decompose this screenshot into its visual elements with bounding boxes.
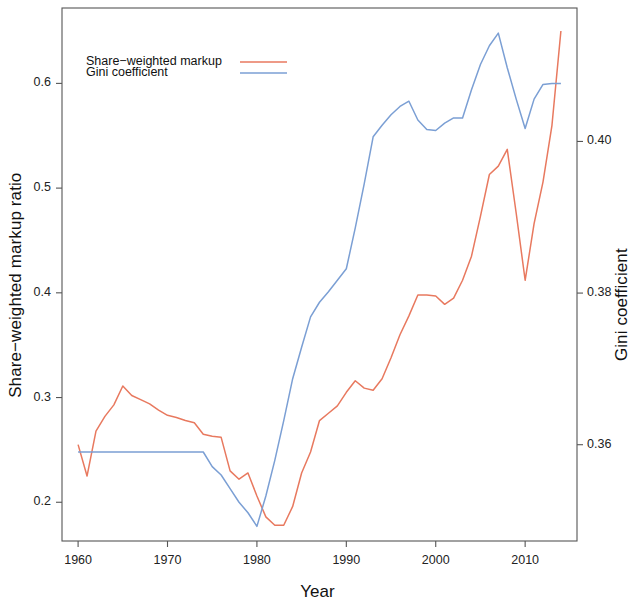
y-tick-label-right: 0.36 xyxy=(587,437,623,451)
series-line-share-weighted-markup xyxy=(78,31,561,525)
x-axis-title: Year xyxy=(0,582,635,602)
legend-label-gini-coefficient: Gini coefficient xyxy=(86,65,168,79)
y-tick-label-right: 0.40 xyxy=(587,133,623,147)
y-tick-label-left: 0.2 xyxy=(17,494,51,508)
x-tick-label: 1970 xyxy=(148,553,188,567)
x-tick-label: 1990 xyxy=(326,553,366,567)
x-tick-label: 2010 xyxy=(505,553,545,567)
y-axis-title-right: Gini coefficient xyxy=(612,248,632,361)
x-tick-label: 2000 xyxy=(416,553,456,567)
x-tick-label: 1960 xyxy=(58,553,98,567)
y-tick-label-left: 0.6 xyxy=(17,75,51,89)
plot-frame xyxy=(62,8,577,541)
chart-figure: 1960197019801990200020100.20.30.40.50.60… xyxy=(0,0,635,610)
plot-area xyxy=(0,0,635,610)
y-axis-title-left: Share−weighted markup ratio xyxy=(6,173,26,398)
x-tick-label: 1980 xyxy=(237,553,277,567)
series-line-gini-coefficient xyxy=(78,33,561,526)
